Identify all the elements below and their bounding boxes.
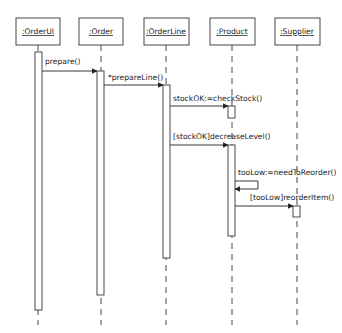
activation-orderui — [35, 52, 42, 310]
message-checkstock-label: stockOK:=checkStock() — [173, 94, 262, 103]
participant-orderline-label: :OrderLine — [146, 27, 186, 36]
message-decreaselevel-label: [stockOK]decreaseLevel() — [173, 132, 271, 141]
participant-orderui-label: :OrderUI — [22, 27, 54, 36]
message-prepare-label: prepare() — [45, 57, 81, 66]
sequence-diagram: :OrderUI :Order :OrderLine :Product :Sup… — [0, 0, 342, 333]
activation-supplier — [293, 206, 300, 217]
message-needtoreorder-label: tooLow:=needToReorder() — [238, 168, 337, 177]
activation-order — [97, 71, 104, 295]
activation-product-check — [228, 106, 235, 118]
participant-product-label: :Product — [216, 27, 247, 36]
activation-orderline — [163, 85, 170, 258]
activation-product-decrease — [228, 145, 235, 236]
message-prepareline-label: *prepareLine() — [108, 73, 163, 82]
message-reorderitem-label: [tooLow]reorderItem() — [250, 193, 334, 202]
participant-order-label: :Order — [89, 27, 114, 36]
participant-supplier-label: :Supplier — [280, 27, 315, 36]
message-needtoreorder-arrow — [235, 181, 258, 189]
